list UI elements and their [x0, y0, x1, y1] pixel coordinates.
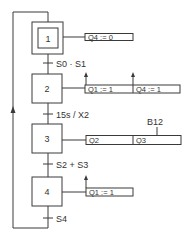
- step-4-label: 4: [44, 187, 49, 197]
- action-q4-reset: Q4 := 0: [88, 33, 113, 42]
- transition-1: S0 · S1: [43, 59, 86, 69]
- step-4-actions: Q1 := 1: [62, 175, 133, 197]
- step-1: 1: [32, 22, 63, 54]
- grafcet-diagram: 1 Q4 := 0 S0 · S1 2 Q1 := 1 Q4 := 1 15s …: [0, 0, 192, 241]
- transition-4-condition: S4: [56, 214, 67, 224]
- transition-2-condition: 15s / X2: [56, 110, 89, 120]
- stored-action-arrow-icon: [131, 72, 135, 77]
- action-q1-set-step4: Q1 := 1: [89, 188, 114, 197]
- action-q4-set: Q4 := 1: [136, 85, 161, 94]
- transition-4: S4: [43, 214, 67, 224]
- stored-action-arrow-icon: [84, 72, 88, 77]
- action-annotation-b12: B12: [147, 117, 163, 127]
- step-2-actions: Q1 := 1 Q4 := 1: [62, 72, 180, 94]
- step-1-actions: Q4 := 0: [63, 33, 133, 42]
- action-q2: Q2: [89, 136, 99, 145]
- step-1-label: 1: [45, 34, 50, 44]
- step-3: 3: [32, 124, 62, 153]
- transition-3-condition: S2 + S3: [56, 160, 88, 170]
- transition-2: 15s / X2: [43, 110, 89, 120]
- step-2: 2: [32, 74, 62, 103]
- action-q3: Q3: [136, 136, 146, 145]
- stored-action-arrow-icon: [84, 175, 88, 180]
- up-arrow-icon: [11, 106, 16, 113]
- step-4: 4: [32, 177, 62, 206]
- action-q1-set: Q1 := 1: [88, 85, 113, 94]
- transition-3: S2 + S3: [43, 160, 88, 170]
- step-3-label: 3: [44, 134, 49, 144]
- transition-1-condition: S0 · S1: [56, 59, 86, 69]
- step-3-actions: Q2 Q3 B12: [62, 117, 181, 145]
- step-2-label: 2: [44, 84, 49, 94]
